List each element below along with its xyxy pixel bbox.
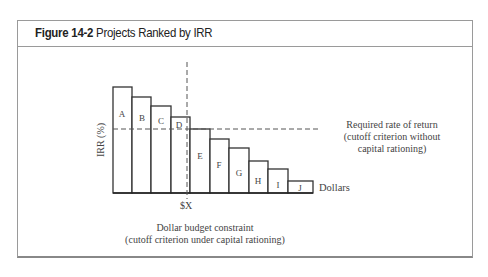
bar-label-b: B	[139, 113, 145, 123]
bar-a	[113, 87, 132, 193]
bar-label-c: C	[158, 116, 164, 126]
required-rate-line2: (cutoff criterion without	[344, 131, 441, 143]
bar-label-e: E	[197, 151, 203, 161]
budget-annotation: Dollar budget constraint (cutoff criteri…	[125, 222, 285, 246]
bar-label-g: G	[236, 168, 243, 178]
bar-label-d: D	[176, 120, 183, 130]
budget-line1: Dollar budget constraint	[156, 222, 253, 233]
bar-b	[132, 97, 151, 193]
bar-e	[190, 129, 210, 193]
budget-marker-label: $X	[180, 200, 193, 211]
project-bars	[113, 87, 313, 193]
required-rate-annotation: Required rate of return (cutoff criterio…	[344, 119, 441, 155]
bar-label-j: J	[298, 183, 302, 193]
bar-label-f: F	[216, 160, 221, 170]
bar-label-i: I	[277, 180, 280, 190]
y-axis-label: IRR (%)	[95, 123, 107, 157]
required-rate-line1: Required rate of return	[346, 119, 437, 130]
x-axis-label: Dollars	[319, 182, 350, 193]
required-rate-line3: capital rationing)	[358, 143, 427, 155]
irr-ranking-chart: A B C D E F G H I J IRR (%) Dollars $X R…	[0, 0, 488, 277]
bar-label-h: H	[255, 176, 262, 186]
bar-label-a: A	[119, 109, 126, 119]
budget-line2: (cutoff criterion under capital rationin…	[125, 234, 285, 246]
